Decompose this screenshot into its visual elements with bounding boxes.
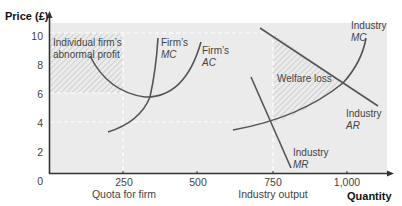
- x-tick-500: 500: [189, 176, 207, 188]
- x-tick-1000: 1,000: [334, 176, 360, 188]
- quota-welfare-chart: Price (£) Quantity 10 8 6 4 2 0 250 500 …: [0, 0, 402, 206]
- industry-mr-label-line1: Industry: [293, 147, 329, 158]
- industry-output-label: Industry output: [238, 188, 308, 200]
- quota-for-firm-label: Quota for firm: [92, 188, 156, 200]
- firm-mc-label-line2: MC: [161, 49, 177, 60]
- industry-mr-label-line2: MR: [293, 159, 309, 170]
- firm-ac-label-line1: Firm’s: [202, 45, 229, 56]
- y-tick-10: 10: [31, 30, 43, 42]
- firm-ac-label-line2: AC: [201, 57, 217, 68]
- origin-label: 0: [37, 175, 43, 187]
- firm-mc-label-line1: Firm’s: [161, 37, 188, 48]
- welfare-loss-label: Welfare loss: [277, 73, 332, 84]
- x-tick-250: 250: [115, 176, 133, 188]
- industry-mc-label-line1: Industry: [351, 20, 387, 31]
- y-tick-6: 6: [37, 88, 43, 100]
- abnormal-profit-label-line2: abnormal profit: [53, 49, 120, 60]
- y-axis-title: Price (£): [5, 10, 49, 22]
- x-axis-title: Quantity: [347, 190, 392, 202]
- industry-ar-label-line2: AR: [345, 120, 360, 131]
- x-tick-750: 750: [264, 176, 282, 188]
- industry-mc-label-line2: MC: [351, 32, 367, 43]
- x-axis-arrow-icon: [387, 171, 394, 177]
- y-tick-4: 4: [37, 117, 43, 129]
- abnormal-profit-label-line1: Individual firm’s: [53, 37, 122, 48]
- y-tick-2: 2: [37, 146, 43, 158]
- industry-ar-label-line1: Industry: [346, 108, 382, 119]
- y-tick-8: 8: [37, 59, 43, 71]
